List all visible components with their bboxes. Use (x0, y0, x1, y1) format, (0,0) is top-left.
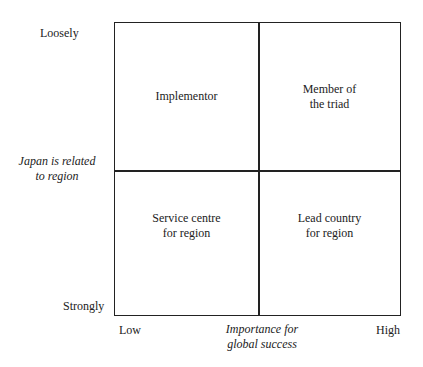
quadrant-lead-country: Lead country for region (259, 171, 400, 281)
y-axis-top-label: Loosely (40, 26, 79, 41)
quadrant-text: Implementor (156, 89, 218, 104)
x-axis-title: Importance for global success (212, 322, 312, 352)
y-axis-bottom-label: Strongly (63, 299, 104, 314)
y-axis-title-line2: to region (5, 169, 109, 184)
quadrant-text: the triad (303, 97, 357, 112)
x-axis-left-label: Low (119, 323, 141, 338)
quadrant-matrix: Implementor Member of the triad Service … (114, 22, 401, 316)
quadrant-text: for region (152, 226, 220, 241)
quadrant-text: Member of (303, 82, 357, 97)
quadrant-service-centre: Service centre for region (115, 171, 258, 281)
x-axis-title-line1: Importance for (212, 322, 312, 337)
quadrant-member-of-triad: Member of the triad (259, 23, 400, 170)
quadrant-text: Service centre (152, 211, 220, 226)
x-axis-title-line2: global success (212, 337, 312, 352)
quadrant-text: Lead country (298, 211, 362, 226)
y-axis-title-line1: Japan is related (5, 154, 109, 169)
x-axis-right-label: High (376, 323, 400, 338)
quadrant-text: for region (298, 226, 362, 241)
y-axis-title: Japan is related to region (5, 154, 109, 184)
quadrant-implementor: Implementor (115, 23, 258, 170)
